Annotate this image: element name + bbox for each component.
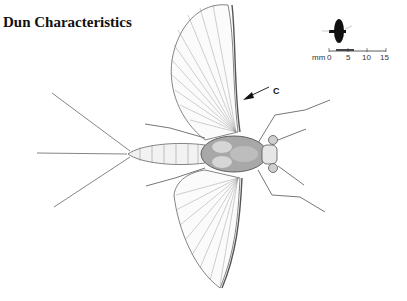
mayfly-illustration [0, 0, 407, 301]
scale-tick-label: 10 [362, 53, 371, 62]
scale-tick-label: 15 [380, 53, 389, 62]
scale-unit-label: mm [312, 53, 325, 62]
scale-bar [329, 48, 386, 52]
abdomen [128, 143, 205, 165]
scale-tick-label: 5 [346, 53, 350, 62]
forewing-upper [171, 5, 240, 140]
head [262, 136, 278, 173]
scale-tick-label: 0 [327, 53, 331, 62]
tails [37, 93, 130, 207]
thorax [201, 136, 267, 172]
forewing-lower [174, 170, 242, 288]
arrow-left-icon [243, 87, 269, 100]
mayfly-silhouette-icon [322, 19, 352, 43]
callout-label: C [273, 86, 280, 96]
